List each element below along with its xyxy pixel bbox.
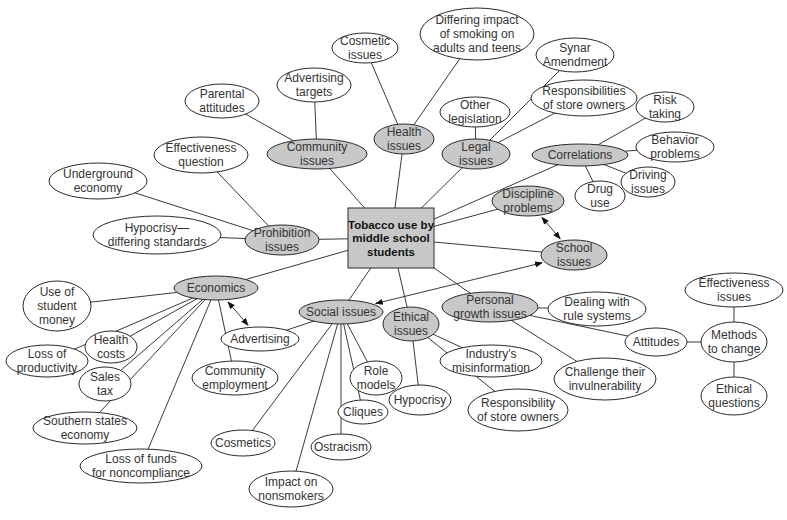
concept-node-dealing[interactable]: Dealing withrule systems xyxy=(548,292,646,326)
double-arrow-economics-advertising xyxy=(228,302,248,325)
concept-node-methods[interactable]: Methodsto change xyxy=(701,322,767,362)
node-label: rule systems xyxy=(563,309,630,323)
concept-node-hypocrisy[interactable]: Hypocrisy xyxy=(389,385,451,415)
node-label: use xyxy=(590,196,610,210)
concept-node-social[interactable]: Social issues xyxy=(299,300,383,324)
node-label: costs xyxy=(97,347,125,361)
concept-node-behavior[interactable]: Behaviorproblems xyxy=(636,132,714,162)
node-label: Community xyxy=(287,140,348,154)
concept-node-correlations[interactable]: Correlations xyxy=(532,144,628,166)
concept-node-parental[interactable]: Parentalattitudes xyxy=(185,84,259,118)
concept-node-drug[interactable]: Druguse xyxy=(575,181,625,211)
concept-node-legal[interactable]: Legalissues xyxy=(442,139,510,169)
node-label: nonsmokers xyxy=(258,489,323,503)
concept-node-resp-store[interactable]: Responsibilitiesof store owners xyxy=(531,80,637,116)
concept-node-personal[interactable]: Personalgrowth issues xyxy=(442,292,538,322)
node-label: employment xyxy=(202,378,268,392)
node-label: problems xyxy=(503,201,552,215)
concept-node-sales-tax[interactable]: Salestax xyxy=(79,367,131,401)
node-label: of smoking on xyxy=(440,27,515,41)
concept-map: CommunityissuesHealthissuesLegalissuesCo… xyxy=(0,0,787,520)
node-label: Prohibition xyxy=(254,226,311,240)
concept-node-challenge[interactable]: Challenge theirinvulnerability xyxy=(554,358,656,400)
node-label: issues xyxy=(394,324,428,338)
concept-node-cosmetics[interactable]: Cosmetics xyxy=(211,430,275,456)
node-label: Use of xyxy=(40,285,75,299)
concept-node-effectiveness-i[interactable]: Effectivenessissues xyxy=(685,273,783,307)
concept-node-adv-targets[interactable]: Advertisingtargets xyxy=(277,68,351,102)
concept-node-school[interactable]: Schoolissues xyxy=(541,240,607,270)
node-label: issues xyxy=(631,182,665,196)
node-label: Personal xyxy=(466,293,513,307)
concept-node-industry[interactable]: Industry'smisinformation xyxy=(440,345,542,377)
node-label: models xyxy=(357,378,396,392)
node-label: attitudes xyxy=(199,101,244,115)
concept-node-southern[interactable]: Southern stateseconomy xyxy=(33,412,137,444)
node-label: economy xyxy=(74,181,123,195)
node-label: Methods xyxy=(711,328,757,342)
node-label: Advertising xyxy=(230,332,289,346)
concept-node-advertising[interactable]: Advertising xyxy=(221,327,299,351)
concept-node-health-costs[interactable]: Healthcosts xyxy=(85,331,137,363)
concept-node-attitudes[interactable]: Attitudes xyxy=(625,328,687,356)
node-label: Dealing with xyxy=(564,295,629,309)
node-label: questions xyxy=(708,396,759,410)
node-label: Economics xyxy=(187,281,246,295)
concept-node-cliques[interactable]: Cliques xyxy=(338,400,388,424)
center-label: students xyxy=(367,246,415,258)
node-label: question xyxy=(178,155,223,169)
concept-node-loss-prod[interactable]: Loss ofproductivity xyxy=(6,345,88,377)
node-label: taking xyxy=(649,107,681,121)
node-label: Risk xyxy=(653,93,677,107)
concept-node-synar[interactable]: SynarAmendment xyxy=(536,38,614,72)
node-label: student xyxy=(37,299,77,313)
node-label: productivity xyxy=(17,361,78,375)
node-label: Ostracism xyxy=(314,440,368,454)
node-label: Social issues xyxy=(306,305,376,319)
concept-node-resp-store2[interactable]: Responsibilityof store owners xyxy=(468,389,568,431)
concept-node-risk[interactable]: Risktaking xyxy=(636,92,694,122)
concept-node-impact-non[interactable]: Impact onnonsmokers xyxy=(249,471,333,507)
concept-node-hypocrisy-ds[interactable]: Hypocrisy—differing standards xyxy=(93,216,221,254)
node-label: Underground xyxy=(63,167,133,181)
center-topic[interactable]: Tobacco use bymiddle schoolstudents xyxy=(348,208,435,268)
node-label: invulnerability xyxy=(569,379,642,393)
concept-node-community[interactable]: Communityissues xyxy=(267,139,367,169)
concept-node-driving[interactable]: Drivingissues xyxy=(621,167,675,197)
concept-node-prohibition[interactable]: Prohibitionissues xyxy=(245,225,319,255)
node-label: Hypocrisy xyxy=(394,393,447,407)
node-label: Discipline xyxy=(502,187,554,201)
node-label: money xyxy=(39,313,75,327)
concept-node-health[interactable]: Healthissues xyxy=(374,124,434,154)
connector-line xyxy=(341,312,363,412)
node-label: Challenge their xyxy=(565,365,646,379)
node-label: Cosmetics xyxy=(215,436,271,450)
concept-node-ethical[interactable]: Ethicalissues xyxy=(383,307,439,341)
node-label: Synar xyxy=(559,41,590,55)
node-label: Loss of xyxy=(28,347,67,361)
concept-node-ethical-q[interactable]: Ethicalquestions xyxy=(701,377,767,415)
node-label: Health xyxy=(387,125,422,139)
concept-node-economics[interactable]: Economics xyxy=(174,276,258,300)
concept-node-other-leg[interactable]: Otherlegislation xyxy=(440,97,510,127)
concept-node-community-emp[interactable]: Communityemployment xyxy=(192,361,278,395)
double-arrow-discipline-school xyxy=(542,217,560,238)
concept-node-use-money[interactable]: Use ofstudentmoney xyxy=(23,281,91,331)
concept-node-role-models[interactable]: Rolemodels xyxy=(350,361,402,395)
node-label: Drug xyxy=(587,182,613,196)
node-label: targets xyxy=(296,85,333,99)
concept-node-cosmetic[interactable]: Cosmeticissues xyxy=(332,33,398,63)
concept-node-differing[interactable]: Differing impactof smoking onadults and … xyxy=(420,8,534,60)
node-label: Effectiveness xyxy=(165,141,236,155)
concept-node-ostracism[interactable]: Ostracism xyxy=(311,434,371,460)
concept-node-loss-funds[interactable]: Loss of fundsfor noncompliance xyxy=(80,449,202,483)
node-label: for noncompliance xyxy=(92,466,190,480)
node-label: tax xyxy=(97,384,113,398)
concept-node-underground[interactable]: Undergroundeconomy xyxy=(49,163,147,199)
node-label: Differing impact xyxy=(435,13,519,27)
node-label: School xyxy=(556,241,593,255)
concept-node-discipline[interactable]: Disciplineproblems xyxy=(492,186,564,216)
concept-node-effectiveness-q[interactable]: Effectivenessquestion xyxy=(154,137,248,173)
node-label: Loss of funds xyxy=(105,452,176,466)
node-label: Advertising xyxy=(284,71,343,85)
